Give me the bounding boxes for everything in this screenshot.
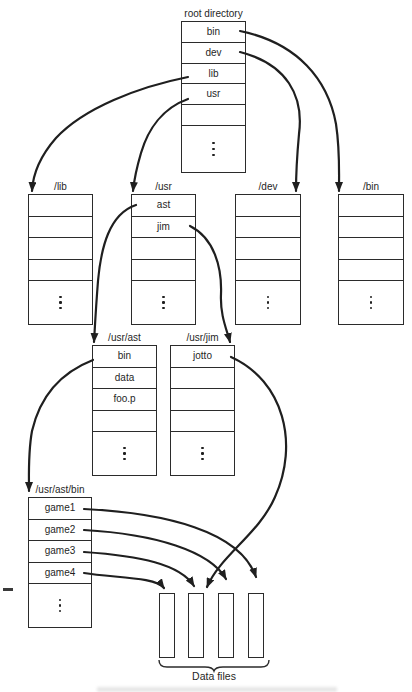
dir-entry-empty bbox=[29, 260, 92, 282]
table-usr-ast-bin: /usr/ast/bin game1 game2 game3 game4 bbox=[28, 497, 92, 628]
dir-entry-empty bbox=[29, 217, 92, 239]
arrow-game1-to-data-file-4 bbox=[84, 509, 256, 577]
dir-entry-empty bbox=[29, 238, 92, 260]
table-lib-title: /lib bbox=[54, 181, 67, 192]
margin-mark bbox=[3, 588, 13, 591]
table-usr-ast: /usr/ast bin data foo.p bbox=[92, 345, 157, 476]
dir-entry-bin: bin bbox=[182, 22, 245, 43]
dir-entry-empty bbox=[236, 260, 300, 282]
table-root-title: root directory bbox=[184, 8, 242, 19]
arrow-game2-to-data-file-3 bbox=[84, 530, 226, 579]
dir-entry-empty bbox=[93, 411, 156, 433]
dir-entry-empty bbox=[339, 195, 403, 217]
dir-entry-foo-p: foo.p bbox=[93, 389, 156, 411]
filesystem-diagram: root directory bin dev lib usr /lib /usr… bbox=[0, 0, 412, 692]
arrow-root-bin-to-bin-dir bbox=[240, 31, 339, 191]
arrow-game4-to-data-file-1 bbox=[84, 573, 164, 588]
dir-entry-empty bbox=[236, 195, 300, 217]
dir-entry-empty bbox=[171, 368, 234, 390]
dir-entry-jim: jim bbox=[132, 217, 195, 239]
vertical-ellipsis-icon bbox=[339, 281, 403, 324]
dir-entry-empty bbox=[171, 389, 234, 411]
table-usr-ast-title: /usr/ast bbox=[108, 332, 141, 343]
vertical-ellipsis-icon bbox=[182, 126, 245, 172]
table-bin-title: /bin bbox=[363, 181, 379, 192]
arrow-root-usr-to-usr-dir bbox=[133, 99, 188, 191]
table-usr-jim-title: /usr/jim bbox=[186, 332, 218, 343]
arrow-root-lib-to-lib-dir bbox=[32, 77, 188, 191]
dir-entry-usr: usr bbox=[182, 84, 245, 105]
dir-entry-empty bbox=[339, 238, 403, 260]
table-usr: /usr ast jim bbox=[131, 194, 196, 325]
vertical-ellipsis-icon bbox=[29, 281, 92, 324]
dir-entry-empty bbox=[132, 238, 195, 260]
dir-entry-empty bbox=[339, 217, 403, 239]
vertical-ellipsis-icon bbox=[236, 281, 300, 324]
dir-entry-game2: game2 bbox=[29, 520, 91, 542]
data-file-1 bbox=[159, 593, 175, 658]
arrow-usr-jim-to-usr-jim-dir bbox=[190, 226, 230, 342]
dir-entry-empty bbox=[29, 195, 92, 217]
dir-entry-dev: dev bbox=[182, 43, 245, 64]
table-usr-jim: /usr/jim jotto bbox=[170, 345, 235, 476]
dir-entry-empty bbox=[339, 260, 403, 282]
dir-entry-empty bbox=[132, 260, 195, 282]
cropped-caption-artifact bbox=[97, 687, 337, 692]
dir-entry-lib: lib bbox=[182, 64, 245, 85]
vertical-ellipsis-icon bbox=[132, 281, 195, 324]
data-file-4 bbox=[248, 593, 264, 658]
dir-entry-bin: bin bbox=[93, 346, 156, 368]
arrow-usr-ast-to-usr-ast-dir bbox=[94, 205, 136, 342]
data-file-3 bbox=[218, 593, 234, 658]
dir-entry-game3: game3 bbox=[29, 541, 91, 563]
dir-entry-game1: game1 bbox=[29, 498, 91, 520]
dir-entry-empty bbox=[236, 217, 300, 239]
table-lib: /lib bbox=[28, 194, 93, 325]
table-dev: /dev bbox=[235, 194, 301, 325]
dir-entry-data: data bbox=[93, 368, 156, 390]
dir-entry-empty bbox=[182, 105, 245, 126]
table-root-directory: root directory bin dev lib usr bbox=[181, 21, 246, 173]
dir-entry-empty bbox=[171, 411, 234, 433]
data-files-caption: Data files bbox=[154, 670, 274, 682]
vertical-ellipsis-icon bbox=[171, 432, 234, 475]
data-file-2 bbox=[188, 593, 204, 658]
dir-entry-game4: game4 bbox=[29, 563, 91, 585]
table-dev-title: /dev bbox=[259, 181, 278, 192]
dir-entry-jotto: jotto bbox=[171, 346, 234, 368]
table-usr-ast-bin-title: /usr/ast/bin bbox=[36, 484, 85, 495]
dir-entry-ast: ast bbox=[132, 195, 195, 217]
table-bin: /bin bbox=[338, 194, 404, 325]
arrow-game3-to-data-file-2 bbox=[84, 552, 194, 586]
arrow-ast-bin-to-usr-ast-bin-dir bbox=[29, 360, 93, 491]
table-usr-title: /usr bbox=[155, 181, 172, 192]
vertical-ellipsis-icon bbox=[29, 584, 91, 627]
arrow-root-dev-to-dev-dir bbox=[240, 52, 300, 191]
dir-entry-empty bbox=[236, 238, 300, 260]
vertical-ellipsis-icon bbox=[93, 432, 156, 475]
